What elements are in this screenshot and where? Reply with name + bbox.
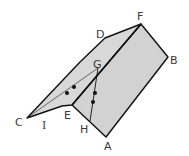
label-g: G bbox=[93, 58, 102, 71]
label-f: F bbox=[137, 10, 143, 23]
label-c: C bbox=[15, 116, 23, 129]
point-2 bbox=[72, 85, 76, 89]
label-b: B bbox=[170, 54, 178, 67]
label-e: E bbox=[64, 109, 71, 122]
point-1 bbox=[65, 91, 69, 95]
point-4 bbox=[91, 100, 95, 104]
label-i: I bbox=[42, 119, 46, 132]
point-3 bbox=[93, 91, 97, 95]
label-d: D bbox=[96, 28, 104, 41]
label-h: H bbox=[80, 123, 88, 136]
diagram-canvas: F D B G E C I H A bbox=[0, 0, 189, 156]
label-a: A bbox=[104, 140, 112, 153]
